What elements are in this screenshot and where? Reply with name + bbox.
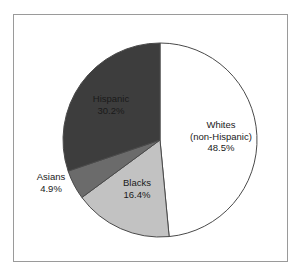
pie-chart-figure: Whites (non-Hispanic) 48.5% Hispanic 30.…	[0, 0, 301, 278]
pie-slice-group	[63, 43, 257, 237]
pie-slice-whites	[160, 43, 257, 237]
pie-svg	[0, 0, 301, 278]
chart-plot-area: Whites (non-Hispanic) 48.5% Hispanic 30.…	[0, 0, 301, 278]
